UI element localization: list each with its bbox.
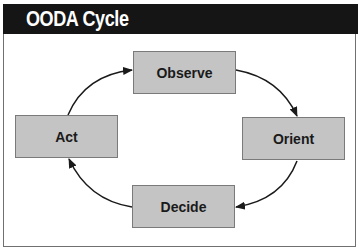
arrow-orient-to-decide bbox=[236, 161, 297, 207]
node-observe: Observe bbox=[133, 51, 236, 94]
node-orient-label: Orient bbox=[273, 131, 314, 147]
node-decide: Decide bbox=[132, 185, 235, 228]
node-act-label: Act bbox=[55, 129, 78, 145]
node-orient: Orient bbox=[242, 117, 345, 160]
node-observe-label: Observe bbox=[156, 65, 212, 81]
arrow-decide-to-act bbox=[69, 159, 132, 207]
node-decide-label: Decide bbox=[161, 199, 207, 215]
node-act: Act bbox=[15, 115, 118, 158]
arrow-observe-to-orient bbox=[236, 70, 297, 116]
arrow-act-to-observe bbox=[68, 70, 132, 115]
